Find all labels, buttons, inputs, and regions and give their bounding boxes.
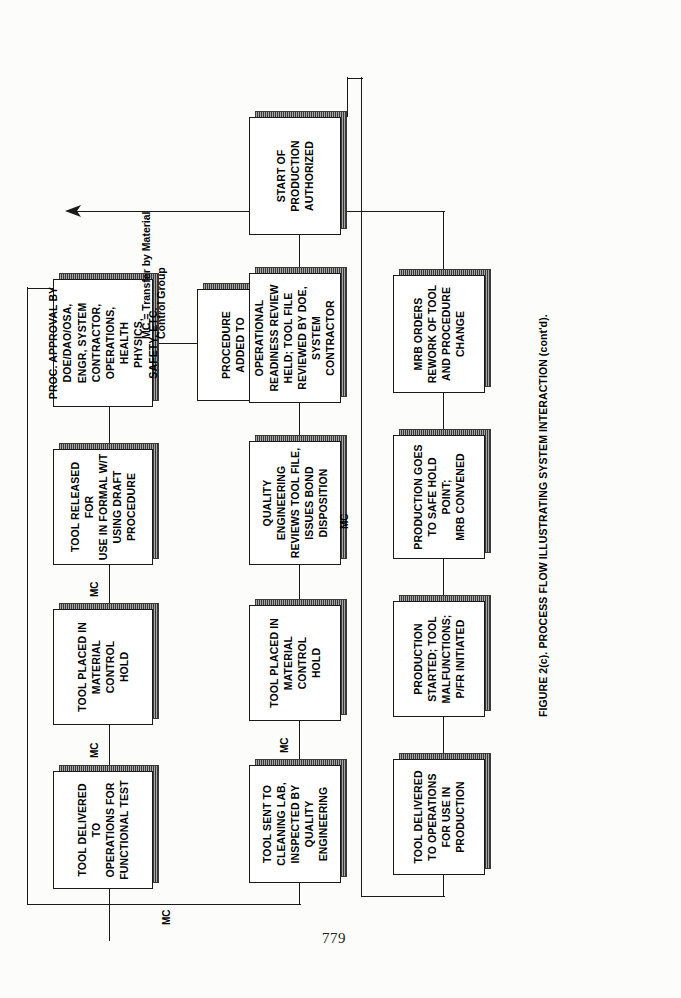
flow-node[interactable]: QUALITY ENGINEERING REVIEWS TOOL FILE, I… [249, 441, 341, 565]
connector-label-mc: MC [279, 737, 290, 753]
connector-label-mc: MC [89, 581, 100, 597]
page-number: 779 [322, 930, 346, 947]
legend-text: MC = Transfer by Material Control Group [139, 159, 169, 339]
flow-node[interactable]: TOOL PLACED IN MATERIAL CONTROL HOLD [53, 609, 153, 725]
flow-node[interactable]: PRODUCTION STARTED; TOOL MALFUNCTIONS; P… [393, 601, 485, 717]
wrap1-foot [299, 883, 300, 905]
wrap2-foot [443, 875, 444, 897]
connector-label-mc: MC [339, 513, 350, 529]
flow-node[interactable]: MRB ORDERS REWORK OF TOOL AND PROCEDURE … [393, 275, 485, 393]
flow-node[interactable]: START OF PRODUCTION AUTHORIZED [249, 117, 341, 235]
flow-node-label: TOOL DELIVERED TO OPERATIONS FOR USE IN … [408, 767, 469, 866]
flow-node[interactable]: TOOL SENT TO CLEANING LAB, INSPECTED BY … [249, 765, 341, 883]
connector-row1-inbound [109, 889, 110, 941]
flow-node[interactable]: TOOL DELIVERED TO OPERATIONS FOR FUNCTIO… [53, 771, 153, 889]
flow-node[interactable]: TOOL DELIVERED TO OPERATIONS FOR USE IN … [393, 759, 485, 875]
wrap1-drop [27, 904, 301, 905]
flow-node[interactable]: PROC. APPROVAL BY DOE/DAO/OSA, ENGR, SYS… [53, 279, 153, 407]
connector-label-mc: MC [161, 909, 172, 925]
connector-label-mc: MC [89, 742, 100, 758]
flow-node-label: PRODUCTION STARTED; TOOL MALFUNCTIONS; P… [408, 612, 469, 707]
flow-node-label: TOOL PLACED IN MATERIAL CONTROL HOLD [72, 610, 133, 724]
wrap2-head [361, 77, 362, 897]
flow-node-label: TOOL SENT TO CLEANING LAB, INSPECTED BY … [257, 766, 332, 882]
figure-stage: TOOL DELIVERED TO OPERATIONS FOR FUNCTIO… [31, 49, 651, 949]
flow-node-label: OPERATIONAL READINESS REVIEW HELD; TOOL … [250, 274, 339, 402]
flow-node-label: TOOL RELEASED FOR USE IN FORMAL W/T USIN… [65, 450, 140, 564]
flow-node-label: TOOL DELIVERED TO OPERATIONS FOR FUNCTIO… [72, 772, 133, 888]
arrow-head-icon [65, 200, 87, 222]
flow-node-label: PRODUCTION GOES TO SAFE HOLD POINT; MRB … [408, 436, 469, 558]
flow-node-label: MRB ORDERS REWORK OF TOOL AND PROCEDURE … [408, 282, 469, 387]
flow-node[interactable]: PRODUCTION GOES TO SAFE HOLD POINT; MRB … [393, 435, 485, 559]
flow-node-label: QUALITY ENGINEERING REVIEWS TOOL FILE, I… [257, 442, 332, 564]
wrap2-down-left [361, 896, 445, 897]
wrap2-down-right [347, 78, 363, 79]
flow-node-label: TOOL PLACED IN MATERIAL CONTROL HOLD [264, 606, 325, 720]
flow-node[interactable]: TOOL PLACED IN MATERIAL CONTROL HOLD [249, 605, 341, 721]
flow-node-label: START OF PRODUCTION AUTHORIZED [271, 137, 318, 215]
outbound-line [443, 211, 444, 275]
wrap1-top [27, 287, 28, 905]
flow-node[interactable]: TOOL RELEASED FOR USE IN FORMAL W/T USIN… [53, 449, 153, 565]
flow-node[interactable]: OPERATIONAL READINESS REVIEW HELD; TOOL … [249, 273, 341, 403]
figure-caption: FIGURE 2(c). PROCESS FLOW ILLUSTRATING S… [537, 314, 549, 717]
